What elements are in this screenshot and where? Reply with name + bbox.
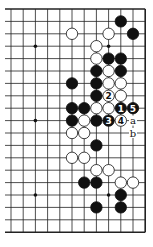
white-stone (115, 78, 126, 89)
black-stone (115, 53, 126, 64)
white-stone (115, 90, 126, 101)
black-stone (91, 65, 102, 76)
white-stone (127, 177, 138, 188)
black-stone (66, 103, 77, 114)
black-stone (115, 16, 126, 27)
white-stone (66, 127, 77, 138)
move-number-label: 4 (118, 116, 124, 126)
black-stone (66, 78, 77, 89)
move-number-label: 2 (105, 91, 111, 101)
move-number-label: 3 (105, 116, 111, 126)
white-stone (103, 65, 114, 76)
hoshi-point (107, 44, 111, 48)
white-stone (103, 165, 114, 176)
white-stone (79, 115, 90, 126)
black-stone (79, 177, 90, 188)
move-number-label: 1 (118, 104, 124, 114)
black-stone (91, 78, 102, 89)
black-stone (91, 90, 102, 101)
black-stone (91, 177, 102, 188)
white-stone (66, 28, 77, 39)
black-stone (91, 202, 102, 213)
black-stone (103, 53, 114, 64)
hoshi-point (107, 193, 111, 197)
black-stone (91, 115, 102, 126)
hoshi-point (34, 193, 38, 197)
black-stone (115, 202, 126, 213)
hoshi-point (34, 119, 38, 123)
white-stone (103, 103, 114, 114)
white-stone (79, 152, 90, 163)
go-board-diagram: 21534ab (0, 0, 153, 247)
move-number-label: 5 (130, 104, 136, 114)
hoshi-point (34, 44, 38, 48)
white-stone (103, 78, 114, 89)
black-stone (127, 28, 138, 39)
black-stone (79, 103, 90, 114)
white-stone (91, 41, 102, 52)
white-stone (79, 127, 90, 138)
white-stone (115, 177, 126, 188)
black-stone (91, 140, 102, 151)
white-stone (66, 152, 77, 163)
white-stone (103, 28, 114, 39)
black-stone (115, 65, 126, 76)
white-stone (91, 53, 102, 64)
point-marker-a: a (130, 115, 136, 126)
point-marker-b: b (130, 128, 136, 139)
white-stone (91, 165, 102, 176)
black-stone (115, 189, 126, 200)
black-stone (66, 115, 77, 126)
white-stone (91, 103, 102, 114)
